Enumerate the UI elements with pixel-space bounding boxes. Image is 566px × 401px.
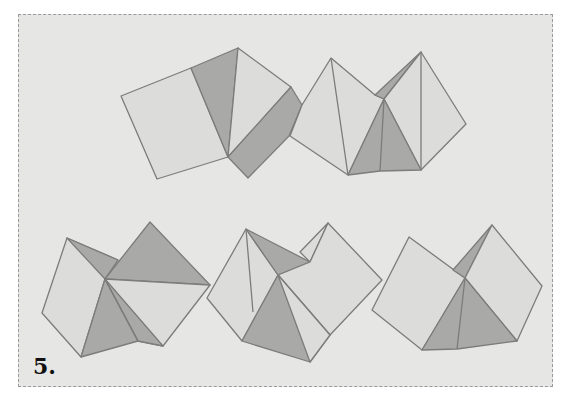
origami-unit-1 <box>121 48 302 179</box>
step-number-label: 5. <box>33 355 56 377</box>
origami-unit-3 <box>42 222 210 357</box>
origami-unit-5 <box>372 225 542 350</box>
origami-diagram <box>0 0 566 401</box>
origami-unit-4 <box>207 223 382 362</box>
origami-unit-2 <box>290 52 466 175</box>
